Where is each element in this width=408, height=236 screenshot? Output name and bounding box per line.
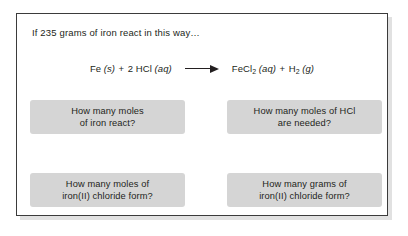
reactant-hcl-formula: HCl: [136, 63, 152, 74]
slide-root: If 235 grams of iron react in this way… …: [0, 0, 408, 236]
question-line-2: are needed?: [278, 117, 331, 130]
reactant-iron-formula: Fe: [90, 63, 101, 74]
question-box-grams-iron-chloride[interactable]: How many grams of iron(II) chloride form…: [227, 173, 382, 207]
question-line-1: How many grams of: [262, 178, 346, 191]
question-box-moles-iron-chloride[interactable]: How many moles of iron(II) chloride form…: [30, 173, 185, 207]
product-hydrogen-subscript: 2: [296, 68, 300, 75]
reactant-hcl: 2 HCl(aq): [128, 63, 172, 74]
reactant-iron: Fe(s): [90, 63, 115, 74]
question-box-moles-hcl[interactable]: How many moles of HCl are needed?: [227, 100, 382, 134]
product-iron-chloride-subscript: 2: [252, 68, 256, 75]
equation-reactants: Fe(s) + 2 HCl(aq): [90, 63, 172, 74]
question-line-1: How many moles: [71, 105, 144, 118]
arrow-head: [210, 65, 219, 73]
plus-sign-products: +: [280, 63, 286, 74]
question-box-moles-iron[interactable]: How many moles of iron react?: [30, 100, 185, 134]
question-line-1: How many moles of HCl: [254, 105, 356, 118]
equation-products: FeCl2(aq) + H2(g): [232, 63, 314, 74]
reactant-iron-state: (s): [104, 63, 115, 74]
question-line-2: iron(II) chloride form?: [62, 190, 153, 203]
product-iron-chloride-formula: FeCl: [232, 63, 252, 74]
slide-panel: If 235 grams of iron react in this way… …: [16, 13, 388, 216]
question-line-2: iron(II) chloride form?: [259, 190, 350, 203]
product-hydrogen: H2(g): [289, 63, 314, 74]
reactant-hcl-coefficient: 2: [128, 63, 133, 74]
chemical-equation: Fe(s) + 2 HCl(aq) FeCl2(aq) + H2(g): [17, 63, 387, 74]
arrow-shaft: [185, 68, 212, 69]
plus-sign-reactants: +: [119, 63, 125, 74]
reactant-hcl-state: (aq): [155, 63, 172, 74]
reaction-arrow-icon: [185, 64, 219, 73]
product-iron-chloride: FeCl2(aq): [232, 63, 276, 74]
product-iron-chloride-state: (aq): [259, 63, 276, 74]
question-line-2: of iron react?: [80, 117, 136, 130]
question-line-1: How many moles of: [66, 178, 149, 191]
prompt-text: If 235 grams of iron react in this way…: [32, 27, 200, 38]
product-hydrogen-formula: H: [289, 63, 296, 74]
product-hydrogen-state: (g): [302, 63, 314, 74]
